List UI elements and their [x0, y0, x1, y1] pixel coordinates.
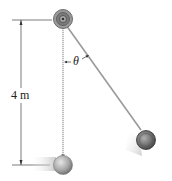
pivot-icon — [54, 10, 73, 29]
dimension-label: 4 m — [10, 88, 30, 102]
angle-label: θ — [73, 54, 79, 68]
motion-blur-bottom — [30, 157, 56, 171]
ball-bottom-icon — [54, 154, 73, 175]
ball-swung-icon — [137, 131, 156, 150]
rope-swung — [66, 25, 141, 130]
